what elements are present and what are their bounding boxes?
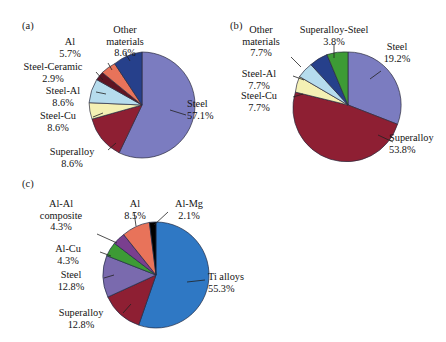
label-c-superalloy-pct: 12.8%: [44, 319, 118, 331]
label-a-steel-ceramic: Steel-Ceramic 2.9%: [9, 61, 97, 84]
label-a-other-materials-name-2: materials: [93, 36, 157, 48]
label-a-steel-pct: 57.1%: [187, 110, 214, 122]
label-b-superalloy-pct: 53.8%: [389, 144, 434, 156]
label-a-steel-cu-pct: 8.6%: [26, 122, 90, 134]
label-b-steel-al: Steel-Al 7.7%: [227, 68, 291, 91]
pie-chart-panel-b: (b): [223, 0, 446, 172]
label-c-ti-alloys-name: Ti alloys: [208, 271, 244, 283]
label-c-al-al-composite-name-2: composite: [24, 210, 98, 222]
label-a-steel-al: Steel-Al 8.6%: [31, 85, 95, 108]
label-b-steel-pct: 19.2%: [369, 53, 425, 65]
label-a-superalloy: Superalloy 8.6%: [36, 146, 108, 169]
figure-root: (a): [0, 0, 446, 342]
label-a-steel-ceramic-pct: 2.9%: [9, 73, 97, 85]
label-c-steel-name: Steel: [40, 269, 102, 281]
label-c-al-cu-name: Al-Cu: [38, 243, 98, 255]
label-a-steel-name: Steel: [187, 98, 214, 110]
label-b-steel-cu-name: Steel-Cu: [227, 90, 291, 102]
label-b-steel-al-pct: 7.7%: [227, 80, 291, 92]
label-b-other-materials: Other materials 7.7%: [230, 24, 292, 59]
label-a-steel-cu: Steel-Cu 8.6%: [26, 110, 90, 133]
label-b-superalloy-steel-pct: 3.8%: [291, 36, 377, 48]
label-c-al-pct: 8.5%: [110, 210, 160, 222]
label-b-steel-cu-pct: 7.7%: [227, 102, 291, 114]
label-c-al: Al 8.5%: [110, 198, 160, 221]
label-a-other-materials: Other materials 8.6%: [93, 24, 157, 59]
label-b-steel-name: Steel: [369, 41, 425, 53]
label-b-other-materials-pct: 7.7%: [230, 47, 292, 59]
pie-chart-panel-a: (a): [0, 0, 223, 172]
label-c-steel-pct: 12.8%: [40, 281, 102, 293]
label-c-al-mg-pct: 2.1%: [161, 210, 217, 222]
label-c-al-mg: Al-Mg 2.1%: [161, 198, 217, 221]
label-c-al-cu-pct: 4.3%: [38, 255, 98, 267]
label-b-steel: Steel 19.2%: [369, 41, 425, 64]
label-b-steel-cu: Steel-Cu 7.7%: [227, 90, 291, 113]
label-c-ti-alloys: Ti alloys 55.3%: [208, 271, 244, 294]
label-a-al: Al 5.7%: [46, 36, 94, 59]
label-c-al-al-composite-name-1: Al-Al: [24, 198, 98, 210]
label-a-steel-ceramic-name: Steel-Ceramic: [9, 61, 97, 73]
label-a-superalloy-pct: 8.6%: [36, 158, 108, 170]
label-a-steel-cu-name: Steel-Cu: [26, 110, 90, 122]
label-b-superalloy: Superalloy 53.8%: [389, 132, 434, 155]
label-b-superalloy-name: Superalloy: [389, 132, 434, 144]
label-c-al-cu: Al-Cu 4.3%: [38, 243, 98, 266]
label-c-superalloy: Superalloy 12.8%: [44, 307, 118, 330]
label-c-al-al-composite-pct: 4.3%: [24, 221, 98, 233]
label-b-steel-al-name: Steel-Al: [227, 68, 291, 80]
label-a-steel-al-pct: 8.6%: [31, 97, 95, 109]
label-a-other-materials-pct: 8.6%: [93, 47, 157, 59]
label-c-superalloy-name: Superalloy: [44, 307, 118, 319]
pie-chart-panel-c: (c): [0, 170, 300, 342]
label-b-other-materials-name-2: materials: [230, 36, 292, 48]
label-c-al-name: Al: [110, 198, 160, 210]
label-c-steel: Steel 12.8%: [40, 269, 102, 292]
label-c-al-mg-name: Al-Mg: [161, 198, 217, 210]
label-a-other-materials-name-1: Other: [93, 24, 157, 36]
label-c-ti-alloys-pct: 55.3%: [208, 283, 244, 295]
label-a-steel-al-name: Steel-Al: [31, 85, 95, 97]
label-a-al-pct: 5.7%: [46, 48, 94, 60]
label-b-other-materials-name-1: Other: [230, 24, 292, 36]
label-a-al-name: Al: [46, 36, 94, 48]
label-b-superalloy-steel: Superalloy-Steel 3.8%: [291, 24, 377, 47]
label-c-al-al-composite: Al-Al composite 4.3%: [24, 198, 98, 233]
label-b-superalloy-steel-name: Superalloy-Steel: [291, 24, 377, 36]
label-a-superalloy-name: Superalloy: [36, 146, 108, 158]
label-a-steel: Steel 57.1%: [187, 98, 214, 121]
